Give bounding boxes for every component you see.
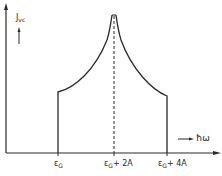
x-tick-label-eg: εG [54,160,63,169]
jdos-curve [58,15,167,153]
x-axis-arrow-icon [213,151,221,155]
x-tick-label-eg-2a: εG+ 2A [104,160,133,169]
x-axis-label-text: ħω [196,133,210,143]
tick-suffix: + 4A [167,159,187,168]
tick-sub: G [58,162,63,169]
y-label-arrow-icon [18,27,21,32]
tick-suffix: + 2A [113,159,133,168]
x-tick-label-eg-4a: εG+ 4A [158,160,187,169]
x-axis-label: ħω [196,134,210,143]
y-axis-arrow-icon [4,3,8,10]
y-axis-label-sub: vc [18,16,25,23]
y-axis-label: Jvc [16,14,25,23]
diagram-canvas [0,0,222,176]
x-label-arrow-icon [189,138,194,141]
